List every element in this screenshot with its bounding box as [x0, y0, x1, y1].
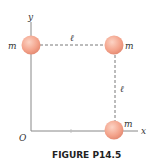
dimension-label-top: ℓ — [70, 33, 74, 43]
mass-label-bottom-right: m — [124, 119, 133, 129]
dimension-label-right: ℓ — [120, 84, 124, 94]
origin-label: O — [19, 133, 27, 143]
mass-label-top-right: m — [125, 41, 134, 51]
figure-diagram: y O x m m m ℓ ℓ FIGURE P14.5 — [0, 0, 157, 163]
mass-top-left — [22, 36, 41, 55]
mass-label-top-left: m — [8, 41, 17, 51]
x-axis-label: x — [141, 126, 146, 136]
mass-top-right — [105, 36, 124, 55]
y-axis-label: y — [27, 12, 34, 22]
mass-bottom-right — [105, 121, 124, 140]
figure-caption: FIGURE P14.5 — [52, 150, 121, 160]
